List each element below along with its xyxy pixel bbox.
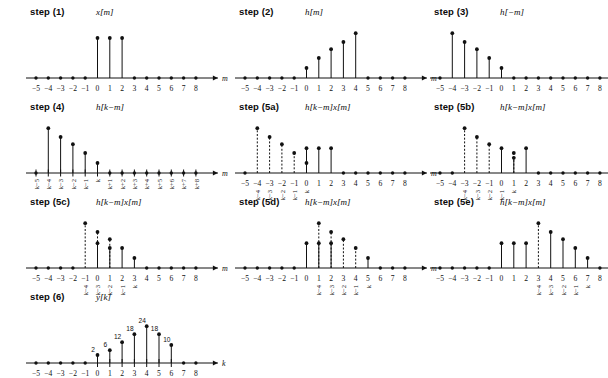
- baseline-dot: [194, 361, 197, 364]
- axis-tick-label: −4: [448, 179, 456, 188]
- stem-head: [329, 146, 333, 150]
- baseline-dot: [293, 76, 296, 79]
- baseline-dot: [438, 76, 441, 79]
- axis-tick-label: 4: [354, 84, 358, 93]
- baseline-dot: [537, 76, 540, 79]
- axis-tick-label: 3: [537, 179, 541, 188]
- stem-plot: m−5−4−3−2−1012345678k−4k−3k−2k−1k: [4, 196, 204, 290]
- stem-value-label: 18: [151, 325, 159, 332]
- axis-tick-label: −3: [266, 84, 274, 93]
- baseline-dot: [574, 171, 577, 174]
- stem-head: [500, 241, 504, 245]
- baseline-dot: [488, 266, 491, 269]
- panel-title: step (1): [30, 6, 65, 17]
- axis-tick-label: 3: [342, 274, 346, 283]
- stem-value-label: 24: [139, 317, 147, 324]
- panel-title: step (5e): [434, 196, 474, 207]
- stem-head: [280, 142, 284, 146]
- stem-plot: m−5−4−3−2−1012345678k−4k−3k−2k−1k: [213, 196, 413, 290]
- axis-k-label: k: [365, 284, 372, 288]
- stem-plot: m−5−4−3−2−1012345678k−4k−3k−2k−1k: [213, 101, 413, 195]
- axis-tick-label: −1: [485, 179, 493, 188]
- stem-head: [59, 135, 63, 139]
- stem-head: [96, 230, 100, 234]
- baseline-dot: [391, 76, 394, 79]
- axis-tick-label: 3: [342, 84, 346, 93]
- baseline-dot: [194, 171, 197, 174]
- axis-tick-label: 1: [108, 84, 112, 93]
- axis-tick-label: −3: [57, 84, 65, 93]
- axis-tick-label: 5: [157, 84, 161, 93]
- baseline-dot: [379, 76, 382, 79]
- axis-tick-label: −3: [461, 84, 469, 93]
- baseline-dot: [170, 76, 173, 79]
- axis-tick-label: 3: [342, 179, 346, 188]
- axis-tick-label: 4: [354, 179, 358, 188]
- baseline-dot: [379, 171, 382, 174]
- axis-k-label: k+6: [168, 178, 175, 189]
- stem-head: [366, 256, 370, 260]
- axis-k-label: k−2: [70, 179, 77, 189]
- baseline-dot: [561, 171, 564, 174]
- axis-tick-label: 0: [305, 84, 309, 93]
- axis-tick-label: 1: [512, 274, 516, 283]
- baseline-dot: [366, 171, 369, 174]
- baseline-dot: [157, 266, 160, 269]
- stem-head: [83, 221, 87, 225]
- axis-tick-label: 2: [120, 369, 124, 378]
- baseline-dot: [133, 171, 136, 174]
- panel-signal-label: h[k−m]x[m]: [500, 102, 546, 112]
- stem-head: [133, 332, 137, 336]
- axis-tick-label: 7: [182, 274, 186, 283]
- stem-value-label: 12: [114, 333, 122, 340]
- axis-tick-label: 3: [537, 274, 541, 283]
- panel-title: step (5a): [239, 101, 279, 112]
- axis-tick-label: 2: [120, 274, 124, 283]
- stem-head: [96, 241, 100, 245]
- axis-k-label: k: [303, 189, 310, 193]
- panel-step5a: step (5a)h[k−m]x[m]m−5−4−3−2−1012345678k…: [213, 101, 413, 195]
- baseline-dot: [194, 76, 197, 79]
- axis-tick-label: 4: [145, 274, 149, 283]
- axis-tick-label: 6: [573, 274, 577, 283]
- stem-head: [487, 56, 491, 60]
- axis-tick-label: −2: [278, 84, 286, 93]
- stem-head: [157, 332, 161, 336]
- axis-tick-label: −2: [69, 84, 77, 93]
- stem-plot: m−5−4−3−2−1012345678k−4k−3k−2k−1k: [408, 101, 608, 195]
- axis-tick-label: 5: [561, 84, 565, 93]
- stem-head: [573, 246, 577, 250]
- stem-head: [108, 246, 112, 250]
- axis-tick-label: −1: [290, 84, 298, 93]
- panel-step5c: step (5c)h[k−m]x[m]m−5−4−3−2−1012345678k…: [4, 196, 204, 290]
- baseline-dot: [71, 76, 74, 79]
- baseline-dot: [403, 171, 406, 174]
- stem-value-label: 6: [103, 341, 107, 348]
- baseline-dot: [256, 266, 259, 269]
- axis-tick-label: 5: [157, 369, 161, 378]
- axis-tick-label: 8: [598, 179, 602, 188]
- baseline-dot: [342, 171, 345, 174]
- axis-tick-label: −2: [278, 274, 286, 283]
- axis-tick-label: −5: [436, 84, 444, 93]
- baseline-dot: [34, 171, 37, 174]
- axis-k-label: k−3: [328, 284, 335, 295]
- baseline-dot: [243, 171, 246, 174]
- panel-step3: step (3)h[−m]m−5−4−3−2−1012345678: [408, 6, 608, 100]
- axis-tick-label: 7: [586, 179, 590, 188]
- axis-tick-label: −2: [69, 274, 77, 283]
- baseline-dot: [403, 266, 406, 269]
- baseline-dot: [524, 76, 527, 79]
- panel-signal-label: h[k−m]x[m]: [500, 197, 546, 207]
- baseline-dot: [512, 76, 515, 79]
- baseline-dot: [537, 171, 540, 174]
- baseline-dot: [549, 76, 552, 79]
- panel-title: step (5c): [30, 196, 70, 207]
- axis-tick-label: 8: [598, 84, 602, 93]
- stem-head: [120, 246, 124, 250]
- baseline-dot: [243, 266, 246, 269]
- axis-tick-label: 2: [329, 274, 333, 283]
- panel-signal-label: h[−m]: [500, 7, 524, 17]
- stem-head: [512, 241, 516, 245]
- baseline-dot: [59, 76, 62, 79]
